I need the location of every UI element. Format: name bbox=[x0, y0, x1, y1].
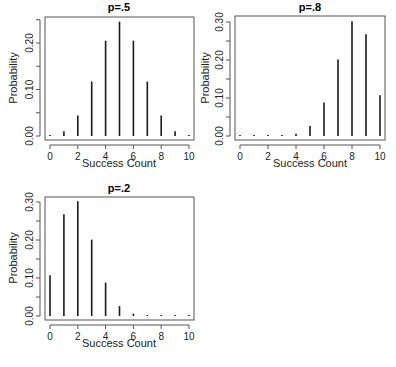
x-tick-label: 8 bbox=[158, 151, 164, 162]
y-axis-label: Probability bbox=[7, 232, 19, 284]
panel-title: p=.5 bbox=[108, 1, 130, 13]
y-tick-label: 0.00 bbox=[24, 126, 35, 146]
y-tick-label: 0.10 bbox=[24, 268, 35, 288]
y-axis-label: Probability bbox=[199, 52, 211, 104]
x-tick-label: 10 bbox=[374, 151, 386, 162]
y-tick-label: 0.00 bbox=[214, 126, 225, 146]
y-tick-label: 0.20 bbox=[24, 230, 35, 250]
y-tick-label: 0.30 bbox=[24, 192, 35, 212]
x-axis-label: Success Count bbox=[82, 157, 156, 169]
x-tick-label: 0 bbox=[47, 331, 53, 342]
bar-series bbox=[50, 22, 189, 136]
x-axis-label: Success Count bbox=[82, 337, 156, 349]
bar-series bbox=[240, 21, 380, 136]
x-tick-label: 0 bbox=[47, 151, 53, 162]
x-axis-label: Success Count bbox=[273, 157, 347, 169]
panel-title: p=.8 bbox=[299, 1, 321, 13]
y-axis: 0.000.100.20 bbox=[24, 20, 40, 146]
y-tick-label: 0.30 bbox=[214, 12, 225, 32]
y-axis: 0.000.100.200.30 bbox=[24, 192, 40, 326]
panel-title: p=.2 bbox=[108, 182, 130, 194]
plot-frame bbox=[45, 197, 194, 320]
y-tick-label: 0.00 bbox=[24, 306, 35, 326]
chart-canvas: p=.5 0246810 0.000.100.20 Success Count … bbox=[0, 0, 396, 367]
y-axis-label: Probability bbox=[7, 52, 19, 104]
x-tick-label: 2 bbox=[75, 331, 81, 342]
panel-p05: p=.5 0246810 0.000.100.20 Success Count … bbox=[7, 1, 195, 169]
x-tick-label: 0 bbox=[237, 151, 243, 162]
panel-p08: p=.8 0246810 0.000.100.200.30 Success Co… bbox=[199, 1, 386, 169]
plot-frame bbox=[235, 16, 385, 140]
x-tick-label: 2 bbox=[265, 151, 271, 162]
bar-series bbox=[50, 201, 189, 316]
y-tick-label: 0.10 bbox=[24, 79, 35, 99]
y-tick-label: 0.20 bbox=[24, 33, 35, 53]
x-tick-label: 10 bbox=[183, 331, 195, 342]
y-axis: 0.000.100.200.30 bbox=[214, 12, 230, 146]
x-tick-label: 8 bbox=[349, 151, 355, 162]
x-tick-label: 2 bbox=[75, 151, 81, 162]
y-tick-label: 0.10 bbox=[214, 88, 225, 108]
x-tick-label: 8 bbox=[158, 331, 164, 342]
x-tick-label: 10 bbox=[183, 151, 195, 162]
y-tick-label: 0.20 bbox=[214, 50, 225, 70]
panel-p02: p=.2 0246810 0.000.100.200.30 Success Co… bbox=[7, 182, 195, 349]
